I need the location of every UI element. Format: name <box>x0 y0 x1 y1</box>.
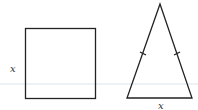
triangle-base-label: x <box>158 100 164 110</box>
square-shape <box>26 29 96 99</box>
square-side-label: x <box>10 63 16 74</box>
geometry-figure: x x <box>0 0 198 110</box>
